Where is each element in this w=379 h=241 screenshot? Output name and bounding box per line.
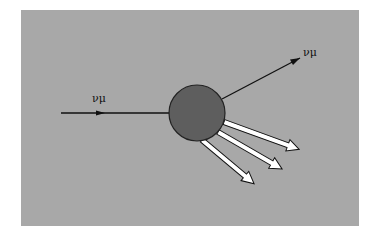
incoming-neutrino-line (61, 111, 170, 116)
incoming-neutrino-label: νμ (92, 92, 106, 105)
feynman-diagram (0, 0, 379, 241)
outgoing-neutrino-line (222, 58, 300, 99)
target-blob (169, 85, 225, 141)
outgoing-neutrino-label: νμ (303, 46, 317, 59)
